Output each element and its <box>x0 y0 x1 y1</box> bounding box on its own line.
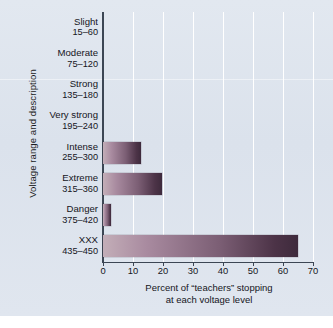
x-axis-title-line1: Percent of “teachers” stopping <box>103 282 315 294</box>
x-axis-title: Percent of “teachers” stopping at each v… <box>103 282 315 306</box>
bar-intense <box>103 142 141 164</box>
category-label-intense: Intense255–300 <box>18 142 98 163</box>
category-name: Extreme <box>18 173 98 184</box>
category-label-very-strong: Very strong195–240 <box>18 110 98 131</box>
category-voltage-range: 375–420 <box>18 215 98 225</box>
x-tick-label-70: 70 <box>301 265 325 276</box>
gridline-20 <box>163 12 164 262</box>
gridline-30 <box>193 12 194 262</box>
bar-xxx <box>103 235 298 257</box>
category-label-xxx: XXX435–450 <box>18 235 98 256</box>
category-name: Danger <box>18 204 98 215</box>
category-label-column: Slight15–60Moderate75–120Strong135–180Ve… <box>18 12 98 262</box>
bar-danger <box>103 204 111 226</box>
category-voltage-range: 255–300 <box>18 152 98 162</box>
x-tick-label-10: 10 <box>121 265 145 276</box>
category-voltage-range: 195–240 <box>18 121 98 131</box>
x-axis-title-line2: at each voltage level <box>103 294 315 306</box>
category-voltage-range: 15–60 <box>18 27 98 37</box>
category-label-moderate: Moderate75–120 <box>18 48 98 69</box>
gridline-70 <box>313 12 314 262</box>
x-tick-label-30: 30 <box>181 265 205 276</box>
category-voltage-range: 75–120 <box>18 59 98 69</box>
bar-extreme <box>103 173 162 195</box>
category-voltage-range: 435–450 <box>18 246 98 256</box>
category-name: Very strong <box>18 110 98 121</box>
category-voltage-range: 135–180 <box>18 90 98 100</box>
category-name: Moderate <box>18 48 98 59</box>
gridline-40 <box>223 12 224 262</box>
gridline-50 <box>253 12 254 262</box>
category-name: Intense <box>18 142 98 153</box>
x-tick-label-0: 0 <box>91 265 115 276</box>
gridline-60 <box>283 12 284 262</box>
category-name: XXX <box>18 235 98 246</box>
category-voltage-range: 315–360 <box>18 184 98 194</box>
category-label-slight: Slight15–60 <box>18 17 98 38</box>
category-name: Strong <box>18 79 98 90</box>
x-tick-label-40: 40 <box>211 265 235 276</box>
x-tick-label-20: 20 <box>151 265 175 276</box>
plot-area <box>103 12 313 262</box>
category-label-strong: Strong135–180 <box>18 79 98 100</box>
category-name: Slight <box>18 17 98 28</box>
x-tick-label-50: 50 <box>241 265 265 276</box>
x-tick-label-row: 010203040506070 <box>103 265 315 279</box>
bar-chart-figure: Voltage range and description Slight15–6… <box>0 0 333 328</box>
category-label-extreme: Extreme315–360 <box>18 173 98 194</box>
gridline-10 <box>133 12 134 262</box>
category-label-danger: Danger375–420 <box>18 204 98 225</box>
x-tick-label-60: 60 <box>271 265 295 276</box>
